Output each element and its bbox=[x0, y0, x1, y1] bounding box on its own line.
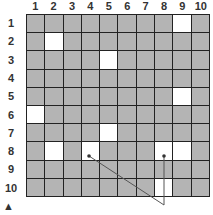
column-label: 5 bbox=[100, 0, 118, 13]
column-label: 4 bbox=[81, 0, 99, 13]
grid-cell-r10c2 bbox=[45, 179, 62, 196]
grid-cell-r5c4 bbox=[82, 88, 99, 105]
grid-cell-r7c3 bbox=[64, 124, 81, 141]
grid-cell-r7c5 bbox=[100, 124, 117, 141]
column-label: 6 bbox=[118, 0, 136, 13]
column-label: 2 bbox=[44, 0, 62, 13]
grid-cell-r10c9 bbox=[173, 179, 190, 196]
grid-cell-r7c7 bbox=[137, 124, 154, 141]
grid-cell-r9c7 bbox=[137, 161, 154, 178]
grid-cell-r7c8 bbox=[155, 124, 172, 141]
grid-cell-r9c6 bbox=[118, 161, 135, 178]
grid-cell-r8c1 bbox=[27, 142, 44, 159]
grid-cell-r7c9 bbox=[173, 124, 190, 141]
column-label: 1 bbox=[26, 0, 44, 13]
grid-cell-r9c1 bbox=[27, 161, 44, 178]
grid-cell-r5c5 bbox=[100, 88, 117, 105]
grid-cell-r6c8 bbox=[155, 106, 172, 123]
grid-cell-r7c2 bbox=[45, 124, 62, 141]
grid-cell-r4c1 bbox=[27, 70, 44, 87]
row-label: 8 bbox=[0, 142, 22, 160]
grid-cell-r10c3 bbox=[64, 179, 81, 196]
grid-cell-r1c7 bbox=[137, 15, 154, 32]
row-label: 1 bbox=[0, 14, 22, 32]
row-label: 9 bbox=[0, 160, 22, 178]
row-label: 6 bbox=[0, 106, 22, 124]
grid-cell-r7c4 bbox=[82, 124, 99, 141]
up-arrow-icon: ▲ bbox=[3, 200, 14, 212]
grid-cell-r7c10 bbox=[192, 124, 209, 141]
grid-cell-r5c8 bbox=[155, 88, 172, 105]
grid-cell-r4c4 bbox=[82, 70, 99, 87]
grid-cell-r6c1 bbox=[27, 106, 44, 123]
grid-cell-r4c8 bbox=[155, 70, 172, 87]
grid-cell-r3c5 bbox=[100, 51, 117, 68]
grid-board bbox=[26, 14, 210, 197]
grid-cell-r6c6 bbox=[118, 106, 135, 123]
grid-cell-r6c5 bbox=[100, 106, 117, 123]
grid-cell-r2c3 bbox=[64, 33, 81, 50]
grid-cell-r1c8 bbox=[155, 15, 172, 32]
row-label: 10 bbox=[0, 179, 22, 197]
grid-cell-r5c6 bbox=[118, 88, 135, 105]
grid-cell-r1c10 bbox=[192, 15, 209, 32]
grid-cell-r9c8 bbox=[155, 161, 172, 178]
grid-cell-r8c3 bbox=[64, 142, 81, 159]
grid-cell-r8c10 bbox=[192, 142, 209, 159]
grid-cell-r4c3 bbox=[64, 70, 81, 87]
grid-cell-r8c7 bbox=[137, 142, 154, 159]
grid-cell-r10c8 bbox=[155, 179, 172, 196]
column-label: 8 bbox=[155, 0, 173, 13]
row-label: 3 bbox=[0, 51, 22, 69]
row-label: 7 bbox=[0, 124, 22, 142]
grid-cell-r1c3 bbox=[64, 15, 81, 32]
grid-cell-r3c9 bbox=[173, 51, 190, 68]
grid-cell-r10c5 bbox=[100, 179, 117, 196]
grid-cell-r3c2 bbox=[45, 51, 62, 68]
grid-cell-r2c4 bbox=[82, 33, 99, 50]
grid-cell-r1c2 bbox=[45, 15, 62, 32]
grid-cell-r8c2 bbox=[45, 142, 62, 159]
grid-cell-r3c3 bbox=[64, 51, 81, 68]
grid-cell-r1c1 bbox=[27, 15, 44, 32]
grid-cell-r8c9 bbox=[173, 142, 190, 159]
grid-cell-r3c1 bbox=[27, 51, 44, 68]
grid-cell-r3c8 bbox=[155, 51, 172, 68]
row-label: 4 bbox=[0, 69, 22, 87]
column-label: 7 bbox=[136, 0, 154, 13]
grid-cell-r3c6 bbox=[118, 51, 135, 68]
grid-cell-r8c8 bbox=[155, 142, 172, 159]
column-label: 3 bbox=[63, 0, 81, 13]
grid-cell-r8c5 bbox=[100, 142, 117, 159]
grid-cell-r3c10 bbox=[192, 51, 209, 68]
grid-cell-r6c2 bbox=[45, 106, 62, 123]
grid-cell-r8c6 bbox=[118, 142, 135, 159]
row-label: 5 bbox=[0, 87, 22, 105]
grid-cell-r1c9 bbox=[173, 15, 190, 32]
grid-cell-r4c7 bbox=[137, 70, 154, 87]
grid-cell-r3c4 bbox=[82, 51, 99, 68]
grid-cell-r10c7 bbox=[137, 179, 154, 196]
grid-cell-r1c6 bbox=[118, 15, 135, 32]
grid-cell-r9c9 bbox=[173, 161, 190, 178]
grid-cell-r2c6 bbox=[118, 33, 135, 50]
grid-cell-r7c1 bbox=[27, 124, 44, 141]
grid-cell-r2c5 bbox=[100, 33, 117, 50]
grid-cell-r9c10 bbox=[192, 161, 209, 178]
grid-cell-r5c3 bbox=[64, 88, 81, 105]
grid-cell-r5c9 bbox=[173, 88, 190, 105]
grid-cell-r6c10 bbox=[192, 106, 209, 123]
grid-cell-r2c7 bbox=[137, 33, 154, 50]
grid-cell-r9c5 bbox=[100, 161, 117, 178]
grid-cell-r4c2 bbox=[45, 70, 62, 87]
grid-cell-r10c4 bbox=[82, 179, 99, 196]
grid-cell-r2c10 bbox=[192, 33, 209, 50]
grid-cell-r10c1 bbox=[27, 179, 44, 196]
grid-cell-r2c9 bbox=[173, 33, 190, 50]
column-label: 9 bbox=[173, 0, 191, 13]
grid-cell-r5c7 bbox=[137, 88, 154, 105]
grid-cell-r10c10 bbox=[192, 179, 209, 196]
grid-cell-r7c6 bbox=[118, 124, 135, 141]
grid-cell-r9c2 bbox=[45, 161, 62, 178]
grid-cell-r4c10 bbox=[192, 70, 209, 87]
